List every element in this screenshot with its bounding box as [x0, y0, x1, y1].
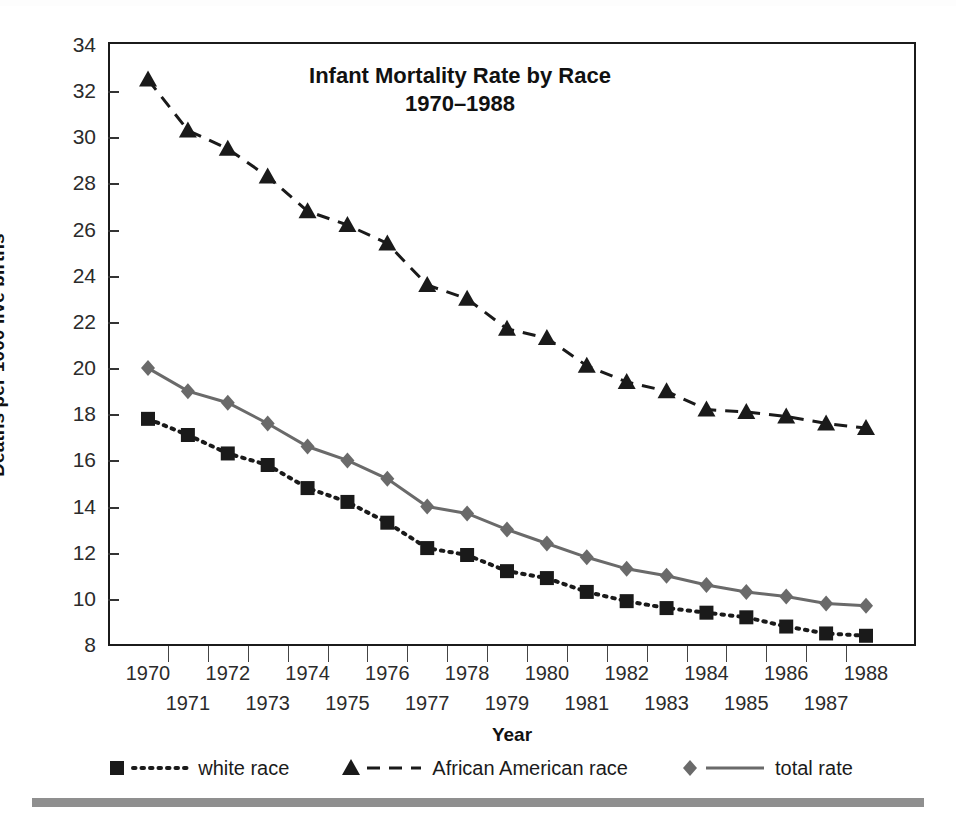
x-tick-label: 1975 — [307, 692, 387, 715]
x-tick-mark — [168, 646, 169, 662]
y-tick-mark — [108, 276, 119, 278]
y-tick-mark — [108, 460, 119, 462]
x-tick-label: 1987 — [786, 692, 866, 715]
x-tick-label: 1978 — [427, 662, 507, 685]
y-tick-label: 26 — [50, 218, 96, 242]
x-tick-label: 1986 — [746, 662, 826, 685]
plot-area — [108, 42, 916, 646]
y-tick-mark — [108, 137, 119, 139]
x-tick-mark — [647, 646, 648, 662]
triangle-marker — [342, 759, 360, 775]
x-tick-label: 1988 — [826, 662, 906, 685]
x-tick-label: 1972 — [188, 662, 268, 685]
x-tick-mark — [367, 646, 368, 662]
y-tick-mark — [108, 507, 119, 509]
legend-sample-square — [107, 757, 189, 779]
x-tick-mark — [806, 646, 807, 662]
figure: Deaths per 1000 live births 343230282624… — [0, 0, 956, 817]
x-tick-mark — [447, 646, 448, 662]
y-tick-label: 14 — [50, 495, 96, 519]
x-tick-label: 1977 — [387, 692, 467, 715]
x-tick-mark — [527, 646, 528, 662]
y-tick-label: 32 — [50, 79, 96, 103]
x-tick-mark — [846, 646, 847, 662]
y-tick-mark — [108, 368, 119, 370]
y-tick-label: 24 — [50, 264, 96, 288]
x-tick-label: 1970 — [108, 662, 188, 685]
legend-sample-diamond — [680, 757, 766, 779]
x-tick-label: 1980 — [507, 662, 587, 685]
x-tick-mark — [248, 646, 249, 662]
chart-title-line1: Infant Mortality Rate by Race — [309, 63, 611, 88]
x-tick-label: 1974 — [268, 662, 348, 685]
x-tick-label: 1982 — [587, 662, 667, 685]
y-tick-mark — [108, 599, 119, 601]
y-tick-mark — [108, 91, 119, 93]
x-tick-mark — [407, 646, 408, 662]
y-tick-label: 34 — [50, 33, 96, 57]
legend-label: total rate — [775, 757, 853, 780]
x-tick-mark — [208, 646, 209, 662]
x-tick-mark — [607, 646, 608, 662]
legend-item[interactable]: total rate — [680, 757, 853, 780]
y-tick-label: 12 — [50, 541, 96, 565]
y-tick-mark — [108, 183, 119, 185]
y-tick-label: 8 — [50, 633, 96, 657]
x-tick-mark — [487, 646, 488, 662]
x-tick-mark — [766, 646, 767, 662]
x-tick-label: 1983 — [627, 692, 707, 715]
x-tick-label: 1985 — [706, 692, 786, 715]
y-tick-mark — [108, 230, 119, 232]
x-tick-mark — [288, 646, 289, 662]
chart-title-line2: 1970–1988 — [405, 91, 515, 116]
y-tick-label: 30 — [50, 125, 96, 149]
legend-item[interactable]: African American race — [341, 757, 628, 780]
x-tick-label: 1984 — [666, 662, 746, 685]
y-tick-label: 16 — [50, 448, 96, 472]
y-tick-label: 20 — [50, 356, 96, 380]
x-axis-title: Year — [108, 724, 916, 746]
x-tick-label: 1976 — [347, 662, 427, 685]
y-tick-label: 28 — [50, 171, 96, 195]
bottom-rule — [32, 798, 924, 807]
legend-label: white race — [198, 757, 289, 780]
chart-title: Infant Mortality Rate by Race1970–1988 — [230, 62, 690, 118]
legend-sample-triangle — [341, 757, 423, 779]
chart-legend: white raceAfrican American racetotal rat… — [60, 752, 900, 784]
scan-artifact-top — [0, 0, 956, 6]
legend-label: African American race — [432, 757, 628, 780]
legend-item[interactable]: white race — [107, 757, 289, 780]
y-tick-mark — [108, 322, 119, 324]
diamond-marker — [683, 760, 697, 776]
y-tick-label: 10 — [50, 587, 96, 611]
y-axis-title: Deaths per 1000 live births — [0, 205, 9, 505]
x-tick-mark — [567, 646, 568, 662]
y-tick-mark — [108, 553, 119, 555]
x-tick-label: 1973 — [228, 692, 308, 715]
square-marker — [110, 761, 124, 775]
x-tick-mark — [328, 646, 329, 662]
y-tick-mark — [108, 414, 119, 416]
x-tick-mark — [687, 646, 688, 662]
y-tick-label: 22 — [50, 310, 96, 334]
x-tick-label: 1981 — [547, 692, 627, 715]
x-tick-label: 1979 — [467, 692, 547, 715]
x-tick-mark — [726, 646, 727, 662]
x-tick-label: 1971 — [148, 692, 228, 715]
y-tick-label: 18 — [50, 402, 96, 426]
